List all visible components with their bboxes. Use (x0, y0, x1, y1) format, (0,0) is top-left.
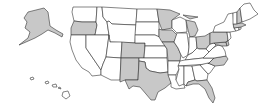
state-washington: Washington (72, 7, 97, 22)
state-north-dakota: North Dakota (136, 9, 159, 22)
state-florida: Florida (186, 80, 215, 103)
state-new-mexico: New Mexico (120, 58, 139, 82)
state-hawaii: Hawaii (30, 77, 70, 99)
state-vermont: Vermont (233, 12, 237, 24)
state-pennsylvania: Pennsylvania (210, 32, 228, 44)
state-iowa: Iowa (159, 29, 177, 42)
us-map: AlaskaHawaiiWashingtonOregonCaliforniaId… (0, 0, 280, 112)
state-wisconsin: Wisconsin (172, 17, 187, 33)
state-new-york: New York (213, 13, 236, 32)
state-maine: Maine (240, 3, 258, 22)
state-oregon: Oregon (71, 21, 97, 35)
state-kansas: Kansas (144, 46, 167, 58)
state-colorado: Colorado (121, 42, 145, 58)
states-layer: AlaskaHawaiiWashingtonOregonCaliforniaId… (19, 3, 258, 103)
state-alaska: Alaska (19, 8, 63, 45)
